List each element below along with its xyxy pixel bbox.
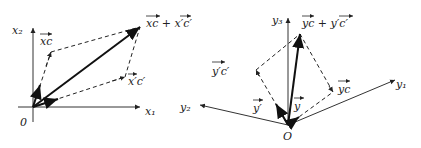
ypcp-label: y′c′ bbox=[211, 65, 230, 78]
left-origin-label: 0 bbox=[20, 116, 27, 129]
y1-axis-label: y₁ bbox=[395, 78, 407, 91]
left-diagram: x₂ x₁ 0 xc x′c′ xc + x′c′ bbox=[12, 16, 192, 129]
right-origin-label: O bbox=[283, 130, 292, 143]
right-diagram: y₃ y₁ y₂ O yc + y′c′ y′c′ yc y′ y bbox=[179, 14, 407, 143]
y2-axis-label: y₂ bbox=[179, 101, 191, 114]
y3-axis-label: y₃ bbox=[271, 14, 283, 27]
y-label: y bbox=[293, 100, 301, 113]
xpcp-label: x′c′ bbox=[128, 75, 146, 88]
vector-addition-diagram: x₂ x₁ 0 xc x′c′ xc + x′c′ y₃ y₁ y₂ O bbox=[0, 0, 421, 148]
yp-label: y′ bbox=[252, 102, 262, 115]
yp-small-vector bbox=[276, 104, 288, 125]
x1-axis-label: x₁ bbox=[145, 105, 156, 118]
right-dashed-side bbox=[125, 27, 140, 77]
sum-y-label: yc + y′c′ bbox=[301, 17, 348, 30]
y2-axis bbox=[200, 105, 288, 125]
top-dashed-side bbox=[51, 27, 140, 52]
upper-left-dashed-side bbox=[256, 34, 300, 70]
yc-label: yc bbox=[337, 83, 350, 96]
x2-axis-label: x₂ bbox=[12, 24, 23, 37]
sum-x-label: xc + x′c′ bbox=[146, 17, 192, 30]
xc-arrowhead bbox=[46, 52, 51, 66]
ypcp-arrowhead bbox=[256, 70, 259, 76]
xc-label: xc bbox=[40, 35, 52, 48]
upper-right-dashed-side bbox=[300, 34, 333, 92]
